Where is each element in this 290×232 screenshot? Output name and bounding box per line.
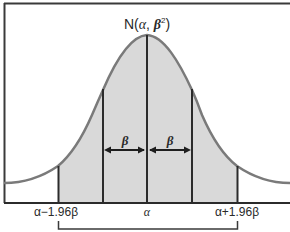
distribution-title: N(α, β2) (124, 16, 170, 32)
right-sd-label: β (166, 133, 174, 148)
interval-bracket (59, 221, 238, 229)
normal-distribution-diagram: β β N(α, β2) α−1.96β α α+1.96β (0, 0, 290, 232)
x-label-lower-bound: α−1.96β (34, 205, 78, 219)
left-sd-label: β (121, 133, 129, 148)
x-label-mean: α (144, 205, 151, 219)
x-label-upper-bound: α+1.96β (215, 205, 259, 219)
